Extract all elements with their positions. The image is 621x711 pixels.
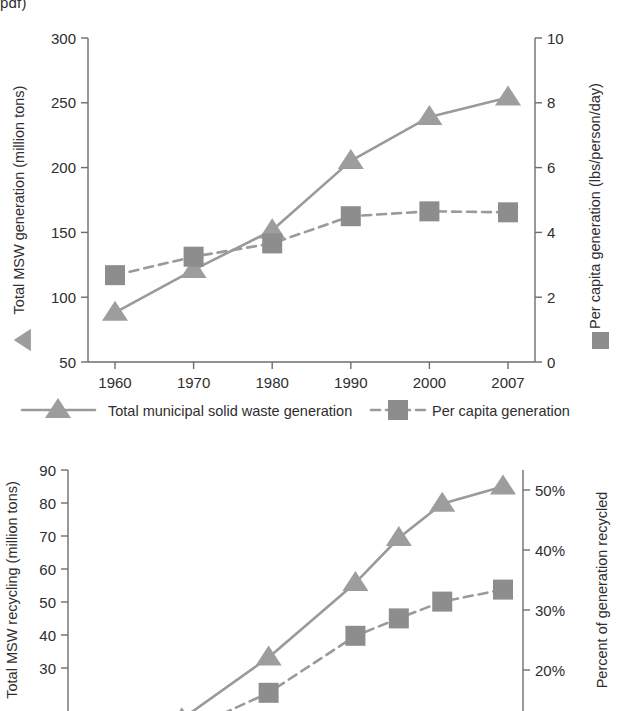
right-tick-label-1: 8: [547, 94, 555, 111]
clipped-header-text: pdf): [0, 0, 120, 16]
series-line-0: [115, 98, 508, 313]
legend-1: Total municipal solid waste generationPe…: [22, 398, 570, 420]
left-tick-label-1: 50: [59, 354, 76, 371]
x-tick-label-1: 2007: [491, 374, 524, 391]
left-tick-label-1: 100: [51, 289, 76, 306]
right-tick-label-1: 10: [547, 30, 564, 47]
chart-msw-recycling: 30405060708090Total MSW recycling (milli…: [0, 440, 621, 711]
left-tick-label-1: 150: [51, 224, 76, 241]
data-point-square: [498, 202, 518, 222]
left-tick-label-2: 40: [39, 627, 56, 644]
chart-msw-generation: 50100150200250300Total MSW generation (m…: [0, 18, 621, 430]
right-tick-label-1: 6: [547, 159, 555, 176]
left-tick-label-1: 300: [51, 30, 76, 47]
data-point-square-2: [432, 592, 452, 612]
data-point-square-2: [259, 683, 279, 703]
data-point-triangle-2: [386, 526, 412, 546]
data-point-triangle: [338, 149, 364, 169]
x-tick-label-1: 1960: [98, 374, 131, 391]
data-point-square-2: [389, 608, 409, 628]
data-point-triangle: [102, 301, 128, 321]
data-point-triangle: [495, 86, 521, 106]
right-axis-title-2: Percent of generation recycled: [594, 492, 610, 689]
chart-msw-recycling-svg: 30405060708090Total MSW recycling (milli…: [0, 440, 621, 711]
left-tick-label-2: 30: [39, 660, 56, 677]
plot-area-2: 30405060708090Total MSW recycling (milli…: [4, 462, 610, 711]
legend-square-icon: [388, 400, 408, 420]
data-point-square: [105, 265, 125, 285]
left-axis-title-1: Total MSW generation (million tons): [11, 86, 27, 315]
right-tick-label-2: 40%: [535, 542, 565, 559]
left-tick-label-1: 200: [51, 159, 76, 176]
left-axis-triangle-icon: [14, 329, 31, 351]
data-point-square: [419, 201, 439, 221]
right-axis-square-icon: [592, 332, 609, 349]
right-tick-label-1: 4: [547, 224, 555, 241]
data-point-square-2: [345, 626, 365, 646]
left-tick-label-2: 70: [39, 528, 56, 545]
left-tick-label-1: 250: [51, 94, 76, 111]
right-tick-label-1: 2: [547, 289, 555, 306]
x-tick-label-1: 1980: [256, 374, 289, 391]
data-point-square: [184, 247, 204, 267]
right-tick-label-1: 0: [547, 354, 555, 371]
left-tick-label-2: 50: [39, 594, 56, 611]
data-point-triangle-2: [169, 707, 195, 711]
data-point-square-2: [493, 580, 513, 600]
data-point-square: [341, 206, 361, 226]
legend-triangle-icon: [45, 398, 71, 418]
legend-label-1: Per capita generation: [432, 403, 570, 419]
x-tick-label-1: 2000: [413, 374, 446, 391]
left-tick-label-2: 80: [39, 495, 56, 512]
data-point-square: [262, 233, 282, 253]
x-tick-label-1: 1970: [177, 374, 210, 391]
right-tick-label-2: 50%: [535, 482, 565, 499]
plot-area-1: 50100150200250300Total MSW generation (m…: [11, 30, 609, 392]
left-tick-label-2: 90: [39, 462, 56, 479]
right-tick-label-2: 20%: [535, 662, 565, 679]
series-line-1: [115, 211, 508, 275]
figure-page: pdf) 50100150200250300Total MSW generati…: [0, 0, 621, 711]
right-axis-title-1: Per capita generation (lbs/person/day): [587, 83, 603, 329]
legend-label-0: Total municipal solid waste generation: [108, 403, 352, 419]
right-tick-label-2: 30%: [535, 602, 565, 619]
left-tick-label-2: 60: [39, 561, 56, 578]
chart-msw-generation-svg: 50100150200250300Total MSW generation (m…: [0, 18, 621, 430]
left-axis-title-2: Total MSW recycling (million tons): [4, 481, 20, 699]
x-tick-label-1: 1990: [334, 374, 367, 391]
data-point-triangle-2: [490, 475, 516, 495]
